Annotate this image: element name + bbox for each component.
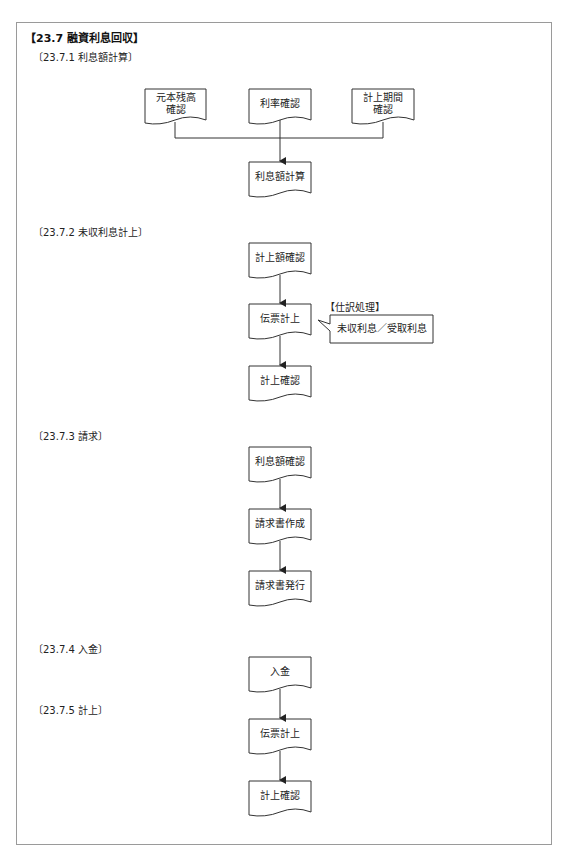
step-rate-check: 利率確認 [249,90,311,118]
step-invoice-create: 請求書作成 [249,510,311,538]
step-posting-check: 計上確認 [249,367,311,395]
step-interest-amount-check: 利息額確認 [249,448,311,476]
step-period-check: 計上期間 確認 [352,90,414,118]
step-amount-check: 計上額確認 [249,244,311,272]
callout-title: 【仕訳処理】 [325,299,385,314]
connector-merge [175,122,383,138]
step-voucher-posting: 伝票計上 [249,305,311,333]
step-invoice-issue: 請求書発行 [249,572,311,600]
step-interest-calc: 利息額計算 [249,163,311,191]
step-principal-balance: 元本残高 確認 [145,90,206,118]
step-voucher-posting-2: 伝票計上 [249,720,311,748]
step-posting-check-2: 計上確認 [249,782,311,810]
callout-text: 未収利息／受取利息 [330,316,433,342]
step-payment: 入金 [249,658,311,686]
